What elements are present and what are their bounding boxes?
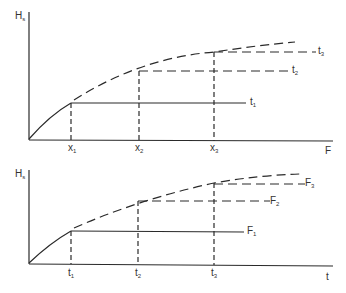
- bottom-tick-t3: t3: [211, 268, 217, 279]
- label-main: t: [326, 271, 329, 282]
- label-sub: 3: [311, 183, 314, 189]
- top-y-axis-label: Hs: [15, 11, 25, 22]
- label-sub: 1: [253, 231, 256, 237]
- top-x-axis: [29, 140, 333, 141]
- label-main: F: [325, 145, 331, 156]
- label-sub: 3: [321, 51, 324, 57]
- top-initial-curve: [29, 103, 71, 139]
- label-sub: 2: [276, 201, 279, 207]
- bottom-curve-label-F1: F1: [247, 226, 256, 237]
- top-x-axis-label: F: [325, 146, 331, 156]
- bottom-F1-line: [71, 231, 244, 232]
- label-sub: 3: [214, 273, 217, 279]
- bottom-x-axis: [29, 264, 333, 266]
- top-curve-label-t2: t2: [292, 65, 298, 76]
- label-sub: 2: [138, 273, 141, 279]
- label-sub: 2: [295, 70, 298, 76]
- bottom-curve-label-F2: F2: [270, 196, 279, 207]
- top-curve-label-t1: t1: [250, 97, 256, 108]
- top-panel: [29, 12, 333, 141]
- bottom-y-axis-label: Hs: [15, 169, 25, 180]
- bottom-initial-curve: [29, 231, 71, 263]
- label-sub: 1: [71, 273, 74, 279]
- top-tick-x3: x3: [210, 143, 218, 154]
- label-sub: 3: [215, 148, 218, 154]
- label-sub: s: [22, 16, 25, 22]
- bottom-tick-t1: t1: [68, 268, 74, 279]
- label-sub: 1: [73, 148, 76, 154]
- bottom-curve-label-F3: F3: [305, 178, 314, 189]
- bottom-tick-t2: t2: [135, 268, 141, 279]
- label-sub: 1: [253, 102, 256, 108]
- label-sub: s: [22, 174, 25, 180]
- diagram-canvas: [0, 0, 346, 293]
- bottom-panel: [29, 170, 333, 266]
- top-curve-label-t3: t3: [318, 46, 324, 57]
- top-tick-x1: x1: [68, 143, 76, 154]
- top-tick-x2: x2: [135, 143, 143, 154]
- bottom-x-axis-label: t: [326, 272, 329, 282]
- label-sub: 2: [140, 148, 143, 154]
